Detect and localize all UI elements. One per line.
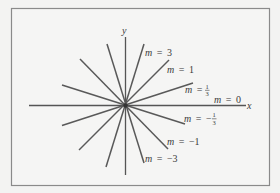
frac-numerator: 1 [206, 83, 209, 90]
slope-diagram: x y m = 3 m [0, 0, 280, 193]
label-slope-neg-1: m = −1 [167, 136, 200, 147]
diagram-canvas: x y m = 3 m [0, 0, 280, 193]
svg-text:m =: m = [185, 84, 203, 95]
label-eq: = [179, 64, 185, 75]
label-slope-neg-one-third: m = − 1 3 [184, 111, 217, 126]
svg-text:m = 0: m = 0 [214, 94, 241, 105]
label-eq: = [157, 153, 163, 164]
label-eq: = [179, 136, 185, 147]
label-var: m [214, 94, 221, 105]
label-val: 3 [167, 47, 172, 58]
label-eq: = [197, 84, 203, 95]
label-var: m [145, 153, 152, 164]
svg-text:m = −1: m = −1 [167, 136, 200, 147]
label-eq: = [226, 94, 232, 105]
label-slope-0: m = 0 [214, 94, 241, 105]
label-eq: = [196, 113, 202, 124]
label-var: m [167, 64, 174, 75]
frac-denominator: 3 [206, 90, 209, 97]
label-var: m [145, 47, 152, 58]
y-axis-label: y [121, 25, 127, 36]
label-eq: = [157, 47, 163, 58]
label-slope-3: m = 3 [145, 47, 172, 58]
label-slope-1: m = 1 [167, 64, 194, 75]
label-val: 0 [236, 94, 241, 105]
label-var: m [167, 136, 174, 147]
origin-point [123, 103, 127, 107]
label-slope-neg-3: m = −3 [145, 153, 178, 164]
svg-text:m = 1: m = 1 [167, 64, 194, 75]
svg-text:m = −: m = − [184, 113, 212, 124]
x-axis-label: x [246, 100, 252, 111]
svg-text:m = −3: m = −3 [145, 153, 178, 164]
svg-text:m = 3: m = 3 [145, 47, 172, 58]
frac-denominator: 3 [213, 119, 216, 126]
label-var: m [185, 84, 192, 95]
frac-numerator: 1 [213, 111, 216, 118]
label-slope-one-third: m = 1 3 [185, 83, 210, 98]
label-sign: − [206, 113, 212, 124]
label-val: 1 [189, 64, 194, 75]
label-val: −1 [189, 136, 200, 147]
label-var: m [184, 113, 191, 124]
label-val: −3 [167, 153, 178, 164]
